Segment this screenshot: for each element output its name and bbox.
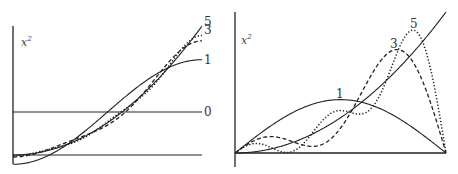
curve-n3 bbox=[235, 50, 446, 153]
right-y-label: x2 bbox=[241, 33, 252, 47]
right-panel: x2 135 bbox=[235, 12, 446, 167]
right-series-label-3: 3 bbox=[390, 37, 398, 51]
left-series-label-1: 1 bbox=[204, 53, 212, 67]
right-series-label-5: 5 bbox=[410, 17, 418, 31]
curve-n5 bbox=[13, 35, 202, 155]
left-series-label-0: 0 bbox=[204, 105, 212, 119]
right-series-label-1: 1 bbox=[336, 87, 344, 101]
left-panel: x2 0135 bbox=[13, 15, 212, 164]
curve-n3 bbox=[13, 41, 202, 157]
curve-x2 bbox=[235, 12, 446, 153]
left-y-label: x2 bbox=[21, 35, 32, 49]
figure: x2 0135 x2 135 bbox=[0, 0, 458, 174]
left-series-label-5: 5 bbox=[204, 15, 212, 29]
curve-x2 bbox=[13, 26, 202, 155]
